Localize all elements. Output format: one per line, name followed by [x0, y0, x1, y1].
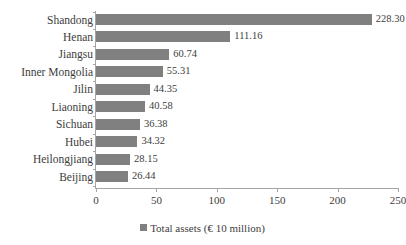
x-axis-tick-label: 50: [151, 193, 162, 207]
x-axis-tick: [217, 188, 218, 192]
x-axis-tick-label: 100: [209, 193, 226, 207]
bar-value-label: 228.30: [376, 12, 405, 26]
bar: [96, 136, 137, 147]
category-label: Inner Mongolia: [1, 65, 93, 79]
bar: [96, 101, 145, 112]
x-axis-tick-label: 150: [269, 193, 286, 207]
bar-row: 111.16: [96, 28, 398, 45]
x-axis-tick-label: 200: [329, 193, 346, 207]
bar-value-label: 28.15: [134, 152, 158, 166]
category-label: Hubei: [1, 135, 93, 149]
chart-legend: Total assets (€ 10 million): [0, 220, 405, 235]
x-axis-tick: [96, 188, 97, 192]
bar: [96, 66, 163, 77]
bar: [96, 171, 128, 182]
category-label: Shandong: [1, 13, 93, 27]
category-labels: ShandongHenanJiangsuInner MongoliaJilinL…: [0, 11, 93, 187]
bar-value-label: 60.74: [173, 47, 197, 61]
legend-label: Total assets (€ 10 million): [150, 222, 265, 234]
category-label: Heilongjiang: [1, 152, 93, 166]
bar-row: 60.74: [96, 46, 398, 63]
bar-value-label: 34.32: [141, 134, 165, 148]
bar-value-label: 36.38: [144, 117, 168, 131]
category-label: Henan: [1, 30, 93, 44]
bar: [96, 31, 230, 42]
bar-value-label: 55.31: [167, 64, 191, 78]
x-axis-tick: [277, 188, 278, 192]
x-axis-tick-label: 250: [390, 193, 406, 207]
plot-area: 228.30111.1660.7455.3144.3540.5836.3834.…: [96, 11, 398, 187]
bar-value-label: 26.44: [132, 169, 156, 183]
bar: [96, 49, 169, 60]
x-axis-tick: [338, 188, 339, 192]
bar-row: 28.15: [96, 151, 398, 168]
bar: [96, 119, 140, 130]
bar-value-label: 44.35: [154, 82, 178, 96]
bar: [96, 14, 372, 25]
bar-row: 55.31: [96, 63, 398, 80]
x-axis-tick: [156, 188, 157, 192]
legend-swatch-icon: [140, 224, 147, 231]
category-label: Sichuan: [1, 117, 93, 131]
bar: [96, 84, 150, 95]
bar-row: 228.30: [96, 11, 398, 28]
bar-row: 26.44: [96, 168, 398, 185]
bar-value-label: 111.16: [234, 29, 262, 43]
x-axis-ticks: 050100150200250: [96, 188, 399, 193]
bar: [96, 154, 130, 165]
category-label: Liaoning: [1, 100, 93, 114]
category-label: Jiangsu: [1, 47, 93, 61]
x-axis-tick-label: 0: [93, 193, 99, 207]
category-label: Jilin: [1, 82, 93, 96]
category-label: Beijing: [1, 170, 93, 184]
bar-value-label: 40.58: [149, 99, 173, 113]
bar-row: 44.35: [96, 81, 398, 98]
bar-row: 40.58: [96, 98, 398, 115]
x-axis-tick: [398, 188, 399, 192]
bar-row: 36.38: [96, 116, 398, 133]
bar-row: 34.32: [96, 133, 398, 150]
